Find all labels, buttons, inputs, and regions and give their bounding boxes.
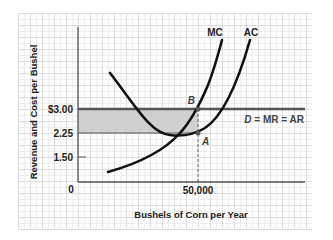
x-tick-label-50000: 50,000 xyxy=(183,185,214,196)
demand-label: D = MR = AR xyxy=(244,114,304,125)
chart-canvas: Revenue and Cost per Bushel $3.00 2.25 1… xyxy=(0,0,333,240)
profit-shaded-region xyxy=(78,109,198,133)
x-axis-label: Bushels of Corn per Year xyxy=(134,209,248,220)
point-a xyxy=(196,131,201,136)
mc-label: MC xyxy=(207,27,223,38)
y-axis-label: Revenue and Cost per Bushel xyxy=(28,45,39,180)
mc-curve xyxy=(108,40,222,172)
y-tick-label-150: 1.50 xyxy=(54,152,74,163)
y-tick-label-225: 2.25 xyxy=(54,128,74,139)
point-a-label: A xyxy=(201,136,209,147)
point-b-label: B xyxy=(188,95,195,106)
point-b xyxy=(196,107,201,112)
ac-label: AC xyxy=(244,27,258,38)
y-tick-label-300: $3.00 xyxy=(48,104,73,115)
origin-label: 0 xyxy=(68,184,74,195)
